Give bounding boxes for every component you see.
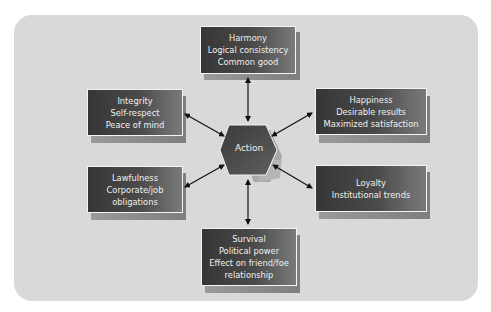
action-label: Action (222, 143, 276, 153)
arrow-action-integrity (185, 114, 224, 136)
arrow-action-lawfulness (185, 165, 224, 187)
diagram-connectors (0, 0, 491, 312)
arrow-action-happiness (272, 113, 312, 136)
